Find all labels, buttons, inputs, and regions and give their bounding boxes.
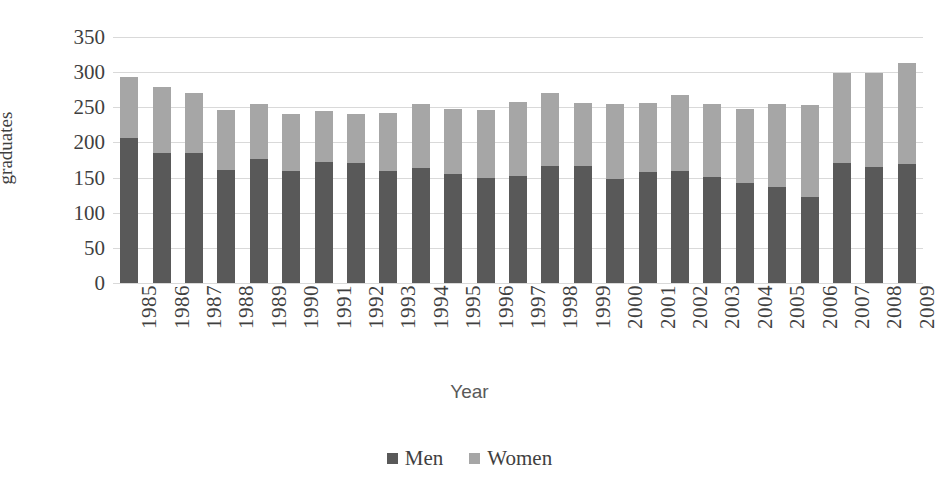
bar-1992[interactable] — [347, 114, 365, 283]
bar-1995[interactable] — [444, 109, 462, 283]
bar-1991[interactable] — [315, 111, 333, 283]
legend-square-swatch-women — [469, 453, 480, 464]
bar-segment-men-1998[interactable] — [541, 166, 559, 283]
bar-segment-women-1996[interactable] — [477, 110, 495, 178]
bar-segment-men-1990[interactable] — [282, 171, 300, 283]
bar-segment-women-1988[interactable] — [217, 110, 235, 170]
bar-segment-women-1990[interactable] — [282, 114, 300, 171]
bar-segment-men-1997[interactable] — [509, 176, 527, 283]
bar-segment-women-1986[interactable] — [153, 87, 171, 153]
bar-segment-men-2004[interactable] — [736, 183, 754, 284]
bar-segment-men-1991[interactable] — [315, 162, 333, 283]
bar-1988[interactable] — [217, 110, 235, 283]
bar-2009[interactable] — [898, 63, 916, 283]
x-tick-label-1985: 1985 — [137, 285, 162, 329]
y-tick-label-200: 200 — [5, 130, 105, 155]
x-tick-label-1992: 1992 — [364, 285, 389, 329]
bar-2003[interactable] — [703, 104, 721, 283]
bar-segment-women-1987[interactable] — [185, 93, 203, 153]
bar-segment-women-2009[interactable] — [898, 63, 916, 164]
bar-segment-men-1994[interactable] — [412, 168, 430, 283]
bar-1989[interactable] — [250, 104, 268, 283]
legend-item-men[interactable]: Men — [387, 448, 444, 469]
x-tick-label-2008: 2008 — [882, 285, 907, 329]
bar-segment-women-1992[interactable] — [347, 114, 365, 163]
bar-segment-women-1997[interactable] — [509, 102, 527, 177]
bar-1998[interactable] — [541, 93, 559, 283]
bar-2000[interactable] — [606, 104, 624, 283]
bar-segment-men-2006[interactable] — [801, 197, 819, 283]
bar-1994[interactable] — [412, 104, 430, 283]
bar-segment-women-1998[interactable] — [541, 93, 559, 166]
x-tick-label-2004: 2004 — [753, 285, 778, 329]
bar-2002[interactable] — [671, 95, 689, 283]
bar-segment-men-1999[interactable] — [574, 166, 592, 283]
bar-segment-men-1992[interactable] — [347, 163, 365, 283]
bar-segment-men-2005[interactable] — [768, 187, 786, 283]
x-tick-label-2001: 2001 — [656, 285, 681, 329]
x-tick-label-1993: 1993 — [396, 285, 421, 329]
bar-segment-women-2006[interactable] — [801, 105, 819, 198]
bar-segment-men-2002[interactable] — [671, 171, 689, 283]
bar-segment-women-2000[interactable] — [606, 104, 624, 179]
bar-segment-women-1993[interactable] — [379, 113, 397, 171]
bar-segment-men-1985[interactable] — [120, 138, 138, 283]
chart-legend: MenWomen — [0, 448, 939, 469]
bar-2004[interactable] — [736, 109, 754, 283]
bar-segment-men-2003[interactable] — [703, 177, 721, 283]
x-tick-label-2005: 2005 — [785, 285, 810, 329]
bar-segment-men-1996[interactable] — [477, 178, 495, 283]
x-tick-label-1989: 1989 — [267, 285, 292, 329]
bar-2001[interactable] — [639, 103, 657, 283]
y-tick-label-250: 250 — [5, 95, 105, 120]
bar-segment-women-2001[interactable] — [639, 103, 657, 172]
bar-2007[interactable] — [833, 73, 851, 283]
x-tick-label-1994: 1994 — [429, 285, 454, 329]
bar-segment-men-2009[interactable] — [898, 164, 916, 283]
x-tick-label-2007: 2007 — [850, 285, 875, 329]
bar-segment-men-1987[interactable] — [185, 153, 203, 283]
bar-segment-men-2001[interactable] — [639, 172, 657, 283]
bar-segment-men-1989[interactable] — [250, 159, 268, 283]
bar-1990[interactable] — [282, 114, 300, 283]
bar-segment-men-1993[interactable] — [379, 171, 397, 283]
bar-segment-women-2008[interactable] — [865, 73, 883, 167]
bar-1985[interactable] — [120, 77, 138, 283]
bar-segment-women-1995[interactable] — [444, 109, 462, 174]
gridline-350 — [113, 37, 923, 38]
bar-2005[interactable] — [768, 104, 786, 283]
bar-segment-men-1986[interactable] — [153, 153, 171, 283]
legend-item-women[interactable]: Women — [469, 448, 552, 469]
bar-segment-men-1995[interactable] — [444, 174, 462, 283]
bar-1999[interactable] — [574, 103, 592, 283]
bar-1993[interactable] — [379, 113, 397, 283]
legend-label-women: Women — [487, 448, 552, 469]
x-tick-label-1995: 1995 — [461, 285, 486, 329]
bar-segment-women-2005[interactable] — [768, 104, 786, 187]
bar-2006[interactable] — [801, 104, 819, 283]
plot-area — [113, 37, 923, 283]
bar-2008[interactable] — [865, 73, 883, 283]
y-tick-label-300: 300 — [5, 60, 105, 85]
bar-segment-men-2007[interactable] — [833, 163, 851, 283]
bar-segment-women-1985[interactable] — [120, 77, 138, 137]
y-tick-label-350: 350 — [5, 25, 105, 50]
bar-1987[interactable] — [185, 93, 203, 283]
bar-segment-women-2004[interactable] — [736, 109, 754, 183]
bar-segment-women-1994[interactable] — [412, 104, 430, 167]
bar-segment-men-1988[interactable] — [217, 170, 235, 283]
bar-segment-men-2000[interactable] — [606, 179, 624, 283]
bar-segment-women-2002[interactable] — [671, 95, 689, 170]
bar-segment-women-1991[interactable] — [315, 111, 333, 162]
bar-segment-women-2007[interactable] — [833, 73, 851, 163]
legend-square-swatch-men — [387, 453, 398, 464]
bar-1997[interactable] — [509, 102, 527, 283]
x-tick-label-2009: 2009 — [915, 285, 939, 329]
bar-segment-men-2008[interactable] — [865, 167, 883, 283]
bar-segment-women-2003[interactable] — [703, 104, 721, 177]
bar-1986[interactable] — [153, 87, 171, 283]
x-tick-label-1991: 1991 — [332, 285, 357, 329]
bar-segment-women-1989[interactable] — [250, 104, 268, 160]
bar-1996[interactable] — [477, 110, 495, 283]
bar-segment-women-1999[interactable] — [574, 103, 592, 166]
